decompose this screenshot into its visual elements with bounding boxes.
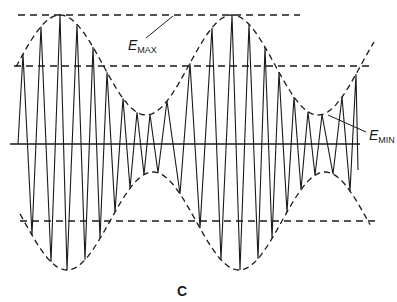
emin-leader-line [328, 115, 366, 132]
emin-label: EMIN [369, 128, 395, 142]
carrier-waveform [18, 15, 358, 270]
emin-label-sub: MIN [378, 135, 395, 145]
emax-label: EMAX [128, 38, 157, 52]
emin-label-main: E [369, 127, 378, 143]
modulated-waveform-diagram [0, 0, 397, 302]
upper-envelope [16, 15, 374, 115]
panel-label: C [177, 284, 187, 298]
emax-leader-line [146, 16, 173, 38]
emax-label-sub: MAX [137, 45, 157, 55]
emax-label-main: E [128, 37, 137, 53]
